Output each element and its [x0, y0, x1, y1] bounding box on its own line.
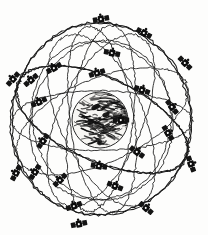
earth-scribble-stroke [107, 127, 112, 128]
satellite-solar-panel-left [92, 17, 97, 23]
earth-scribble-stroke [123, 125, 126, 126]
satellite-solar-panel-right [102, 164, 107, 170]
constellation-canvas [0, 0, 208, 235]
earth-scribble-stroke [93, 119, 96, 120]
constellation-figure [0, 0, 208, 235]
satellite-solar-panel-left [113, 117, 118, 122]
satellite-solar-panel-left [91, 162, 96, 168]
satellite-solar-panel-right [104, 15, 109, 21]
earth-scribble-stroke [89, 133, 96, 134]
satellite-body-highlight [120, 119, 122, 121]
satellite-antenna [120, 114, 123, 117]
satellite-solar-panel-right [125, 117, 130, 122]
